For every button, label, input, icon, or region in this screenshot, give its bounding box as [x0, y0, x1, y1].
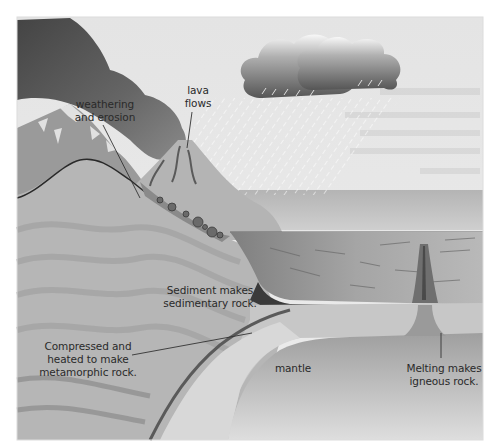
label-sedimentary-rock: Sediment makes sedimentary rock. — [160, 284, 260, 310]
label-mantle: mantle — [268, 362, 318, 375]
label-weathering-and-erosion: weathering and erosion — [70, 98, 140, 124]
label-metamorphic-rock: Compressed and heated to make metamorphi… — [38, 340, 138, 379]
label-igneous-rock: Melting makes igneous rock. — [406, 362, 482, 388]
label-lava-flows: lava flows — [178, 84, 218, 110]
